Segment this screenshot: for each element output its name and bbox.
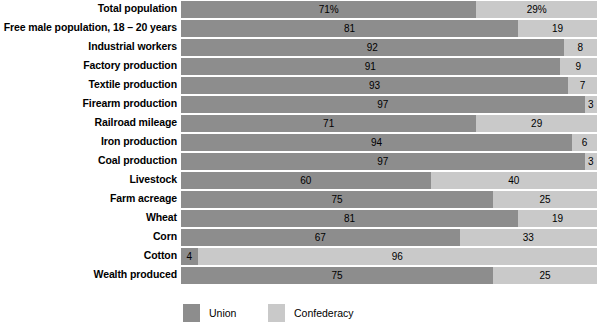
chart-rows: Total population71%29%Free male populati…: [0, 0, 602, 285]
category-label: Wheat: [0, 209, 177, 226]
bar-track: 937: [181, 77, 597, 94]
chart-row: Wheat8119: [0, 209, 602, 228]
bar-value-union: 81: [181, 20, 518, 37]
category-label: Industrial workers: [0, 38, 177, 55]
bar-track: 7525: [181, 267, 597, 284]
bar-value-union: 91: [181, 58, 560, 75]
bar-value-confederacy: 3: [585, 153, 597, 170]
category-label: Cotton: [0, 247, 177, 264]
bar-value-union: 60: [181, 172, 431, 189]
bar-value-confederacy: 29%: [476, 1, 597, 18]
category-label: Iron production: [0, 133, 177, 150]
chart-legend: Union Confederacy: [0, 303, 602, 325]
category-label: Railroad mileage: [0, 114, 177, 131]
bar-value-confederacy: 9: [560, 58, 597, 75]
bar-value-confederacy: 19: [518, 20, 597, 37]
bar-value-union: 97: [181, 153, 585, 170]
bar-value-confederacy: 29: [476, 115, 597, 132]
chart-row: Textile production937: [0, 76, 602, 95]
bar-track: 8119: [181, 20, 597, 37]
bar-value-union: 4: [181, 248, 198, 265]
legend-label-confederacy: Confederacy: [294, 307, 354, 319]
bar-value-union: 92: [181, 39, 564, 56]
bar-track: 7129: [181, 115, 597, 132]
legend-item-union: Union: [183, 303, 236, 322]
chart-row: Total population71%29%: [0, 0, 602, 19]
category-label: Factory production: [0, 57, 177, 74]
bar-value-confederacy: 25: [493, 191, 597, 208]
bar-track: 496: [181, 248, 597, 265]
bar-track: 946: [181, 134, 597, 151]
bar-value-union: 71%: [181, 1, 476, 18]
stacked-bar-chart: Total population71%29%Free male populati…: [0, 0, 602, 332]
legend-swatch-union: [183, 304, 200, 322]
chart-row: Free male population, 18 – 20 years8119: [0, 19, 602, 38]
chart-row: Corn6733: [0, 228, 602, 247]
bar-track: 7525: [181, 191, 597, 208]
chart-row: Railroad mileage7129: [0, 114, 602, 133]
category-label: Total population: [0, 0, 177, 17]
legend-swatch-confederacy: [268, 304, 285, 322]
bar-value-confederacy: 33: [460, 229, 597, 246]
category-label: Farm acreage: [0, 190, 177, 207]
bar-track: 928: [181, 39, 597, 56]
chart-row: Factory production919: [0, 57, 602, 76]
bar-value-confederacy: 19: [518, 210, 597, 227]
bar-value-confederacy: 25: [493, 267, 597, 284]
chart-row: Industrial workers928: [0, 38, 602, 57]
bar-value-union: 71: [181, 115, 476, 132]
category-label: Firearm production: [0, 95, 177, 112]
bar-value-union: 81: [181, 210, 518, 227]
chart-row: Wealth produced7525: [0, 266, 602, 285]
bar-track: 919: [181, 58, 597, 75]
bar-value-confederacy: 3: [585, 96, 597, 113]
bar-value-confederacy: 40: [431, 172, 597, 189]
bar-track: 6040: [181, 172, 597, 189]
bar-value-confederacy: 96: [198, 248, 597, 265]
category-label: Free male population, 18 – 20 years: [0, 19, 177, 36]
category-label: Textile production: [0, 76, 177, 93]
bar-value-confederacy: 7: [568, 77, 597, 94]
chart-row: Iron production946: [0, 133, 602, 152]
bar-value-union: 93: [181, 77, 568, 94]
bar-value-union: 94: [181, 134, 572, 151]
chart-row: Cotton496: [0, 247, 602, 266]
legend-item-confederacy: Confederacy: [268, 303, 354, 322]
category-label: Wealth produced: [0, 266, 177, 283]
category-label: Coal production: [0, 152, 177, 169]
bar-track: 8119: [181, 210, 597, 227]
bar-value-confederacy: 6: [572, 134, 597, 151]
bar-track: 973: [181, 96, 597, 113]
chart-row: Firearm production973: [0, 95, 602, 114]
chart-row: Farm acreage7525: [0, 190, 602, 209]
bar-value-confederacy: 8: [564, 39, 597, 56]
bar-track: 973: [181, 153, 597, 170]
legend-label-union: Union: [209, 307, 236, 319]
bar-track: 71%29%: [181, 1, 597, 18]
chart-row: Coal production973: [0, 152, 602, 171]
bar-value-union: 67: [181, 229, 460, 246]
bar-track: 6733: [181, 229, 597, 246]
bar-value-union: 97: [181, 96, 585, 113]
bar-value-union: 75: [181, 191, 493, 208]
chart-row: Livestock6040: [0, 171, 602, 190]
category-label: Livestock: [0, 171, 177, 188]
bar-value-union: 75: [181, 267, 493, 284]
category-label: Corn: [0, 228, 177, 245]
